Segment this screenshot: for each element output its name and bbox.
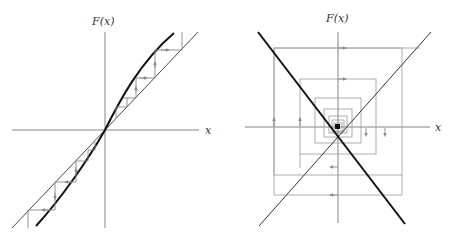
left-cobweb-upper bbox=[116, 32, 182, 118]
fixed-point bbox=[335, 124, 340, 129]
figure: F(x) x bbox=[0, 0, 450, 239]
right-arrows bbox=[274, 48, 385, 195]
right-diagonal bbox=[259, 32, 431, 226]
right-ylabel: F(x) bbox=[325, 12, 348, 25]
right-cobweb bbox=[274, 48, 420, 195]
left-cobweb-lower bbox=[28, 142, 95, 228]
right-panel: F(x) x bbox=[245, 12, 442, 226]
right-xlabel: x bbox=[435, 121, 442, 134]
left-ylabel: F(x) bbox=[91, 15, 114, 28]
left-panel: F(x) x bbox=[12, 15, 212, 228]
left-xlabel: x bbox=[205, 124, 212, 137]
